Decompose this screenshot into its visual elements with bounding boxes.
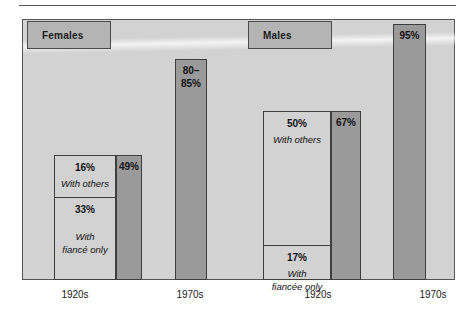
top-divider-rule [19, 5, 456, 6]
segment-label: With others [61, 177, 109, 190]
bar-value-label: 49% [117, 160, 141, 173]
bar-males-1970s-total[interactable]: 95% [393, 24, 426, 280]
tick-label-females-1970s: 1970s [155, 289, 225, 300]
bar-males-1920s-stacked[interactable]: 50% With others 17% With fiancée only [263, 111, 331, 280]
chart-panel: Females Males 16% With others 33% With f… [22, 19, 455, 280]
tick-label-males-1920s: 1920s [283, 289, 353, 300]
bar-value-label: 80– 85% [176, 64, 206, 90]
bar-value-label: 95% [394, 29, 425, 42]
bar-females-1970s-total[interactable]: 80– 85% [175, 59, 207, 280]
bar-females-1920s-total[interactable]: 49% [116, 155, 142, 280]
segment-label: With others [273, 133, 321, 146]
group-header-males-label: Males [263, 30, 292, 41]
bar-males-1920s-total[interactable]: 67% [331, 111, 361, 280]
group-header-females: Females [27, 21, 111, 49]
segment-value: 17% [287, 251, 307, 264]
segment-value: 50% [287, 117, 307, 130]
bar-segment-males-1920s-with-fiancee-only[interactable]: 17% With fiancée only [264, 245, 330, 281]
segment-label: With fiancé only [62, 230, 107, 256]
bar-segment-females-1920s-with-others[interactable]: 16% With others [55, 156, 115, 197]
segment-value: 16% [75, 161, 95, 174]
segment-value: 33% [75, 203, 95, 216]
bar-value-label: 67% [332, 116, 360, 129]
bar-females-1920s-stacked[interactable]: 16% With others 33% With fiancé only [54, 155, 116, 280]
tick-label-females-1920s: 1920s [40, 289, 110, 300]
group-header-females-label: Females [42, 30, 83, 41]
bar-segment-females-1920s-with-fiance-only[interactable]: 33% With fiancé only [55, 197, 115, 281]
group-header-males: Males [248, 21, 332, 49]
tick-label-males-1970s: 1970s [398, 289, 468, 300]
bar-segment-males-1920s-with-others[interactable]: 50% With others [264, 112, 330, 245]
